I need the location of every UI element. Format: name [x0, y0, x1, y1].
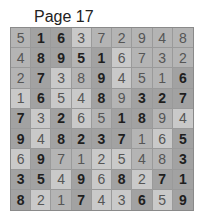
- grid-cell[interactable]: 5: [112, 149, 132, 169]
- grid-cell-given[interactable]: 1: [173, 170, 193, 190]
- grid-cell-given[interactable]: 7: [31, 68, 51, 88]
- grid-cell-given[interactable]: 8: [51, 129, 71, 149]
- grid-cell-given[interactable]: 9: [51, 48, 71, 68]
- grid-cell-given[interactable]: 9: [173, 190, 193, 210]
- grid-cell-given[interactable]: 3: [11, 170, 31, 190]
- grid-cell-given[interactable]: 7: [173, 89, 193, 109]
- grid-cell[interactable]: 7: [92, 28, 112, 48]
- grid-cell[interactable]: 6: [92, 170, 112, 190]
- grid-cell[interactable]: 5: [11, 28, 31, 48]
- grid-cell[interactable]: 2: [112, 28, 132, 48]
- grid-cell[interactable]: 3: [31, 109, 51, 129]
- grid-cell[interactable]: 5: [92, 109, 112, 129]
- grid-cell-given[interactable]: 5: [31, 170, 51, 190]
- grid-cell[interactable]: 4: [153, 28, 173, 48]
- grid-cell[interactable]: 4: [31, 129, 51, 149]
- grid-cell-given[interactable]: 9: [11, 129, 31, 149]
- grid-cell[interactable]: 4: [132, 149, 152, 169]
- grid-cell[interactable]: 2: [31, 190, 51, 210]
- grid-cell-given[interactable]: 6: [132, 190, 152, 210]
- grid-cell[interactable]: 6: [11, 149, 31, 169]
- grid-cell-given[interactable]: 6: [51, 28, 71, 48]
- grid-cell[interactable]: 7: [132, 48, 152, 68]
- grid-cell[interactable]: 6: [153, 129, 173, 149]
- grid-cell-given[interactable]: 3: [132, 89, 152, 109]
- grid-cell[interactable]: 9: [112, 89, 132, 109]
- grid-cell[interactable]: 3: [51, 68, 71, 88]
- grid-cell[interactable]: 1: [132, 129, 152, 149]
- grid-cell[interactable]: 4: [112, 68, 132, 88]
- grid-cell[interactable]: 1: [11, 89, 31, 109]
- grid-cell[interactable]: 8: [153, 149, 173, 169]
- grid-cell[interactable]: 5: [132, 68, 152, 88]
- grid-cell[interactable]: 4: [72, 89, 92, 109]
- grid-cell[interactable]: 2: [92, 149, 112, 169]
- page-title: Page 17: [34, 8, 94, 26]
- grid-cell-given[interactable]: 2: [72, 129, 92, 149]
- grid-cell[interactable]: 7: [51, 149, 71, 169]
- grid-cell-given[interactable]: 6: [173, 68, 193, 88]
- grid-cell-given[interactable]: 5: [173, 129, 193, 149]
- grid-cell[interactable]: 4: [51, 170, 71, 190]
- grid-cell[interactable]: 6: [112, 48, 132, 68]
- grid-cell[interactable]: 5: [51, 89, 71, 109]
- grid-cell-given[interactable]: 3: [92, 129, 112, 149]
- grid-cell-given[interactable]: 7: [11, 109, 31, 129]
- grid-cell[interactable]: 4: [173, 109, 193, 129]
- grid-cell[interactable]: 4: [11, 48, 31, 68]
- grid-cell-given[interactable]: 7: [153, 170, 173, 190]
- grid-cell[interactable]: 2: [173, 48, 193, 68]
- grid-cell[interactable]: 3: [72, 28, 92, 48]
- grid-cell-given[interactable]: 3: [173, 149, 193, 169]
- grid-cell-given[interactable]: 5: [72, 48, 92, 68]
- sudoku-page: Page 17 51637294848951673227389451616548…: [0, 0, 200, 214]
- grid-cell-given[interactable]: 8: [11, 190, 31, 210]
- grid-cell[interactable]: 6: [72, 109, 92, 129]
- grid-cell[interactable]: 3: [153, 48, 173, 68]
- grid-cell-given[interactable]: 7: [112, 129, 132, 149]
- grid-cell-given[interactable]: 6: [31, 89, 51, 109]
- grid-cell-given[interactable]: 9: [31, 149, 51, 169]
- grid-cell-given[interactable]: 2: [51, 109, 71, 129]
- grid-cell[interactable]: 8: [72, 68, 92, 88]
- sudoku-grid: 5163729484895167322738945161654893277326…: [10, 27, 194, 211]
- grid-cell[interactable]: 1: [51, 190, 71, 210]
- grid-cell-given[interactable]: 9: [72, 170, 92, 190]
- grid-cell-given[interactable]: 8: [92, 89, 112, 109]
- grid-cell[interactable]: 9: [153, 109, 173, 129]
- grid-cell-given[interactable]: 8: [31, 48, 51, 68]
- grid-cell-given[interactable]: 1: [31, 28, 51, 48]
- grid-cell[interactable]: 2: [132, 170, 152, 190]
- grid-cell-given[interactable]: 2: [153, 89, 173, 109]
- grid-cell-given[interactable]: 9: [92, 68, 112, 88]
- grid-cell[interactable]: 1: [153, 68, 173, 88]
- grid-cell[interactable]: 3: [112, 190, 132, 210]
- grid-cell-given[interactable]: 1: [112, 109, 132, 129]
- grid-cell[interactable]: 5: [153, 190, 173, 210]
- grid-cell[interactable]: 4: [92, 190, 112, 210]
- grid-cell[interactable]: 8: [173, 28, 193, 48]
- grid-cell[interactable]: 2: [11, 68, 31, 88]
- grid-cell[interactable]: 9: [132, 28, 152, 48]
- grid-cell-given[interactable]: 8: [112, 170, 132, 190]
- grid-cell-given[interactable]: 7: [72, 190, 92, 210]
- grid-cell-given[interactable]: 8: [132, 109, 152, 129]
- grid-cell[interactable]: 1: [72, 149, 92, 169]
- grid-cell-given[interactable]: 1: [92, 48, 112, 68]
